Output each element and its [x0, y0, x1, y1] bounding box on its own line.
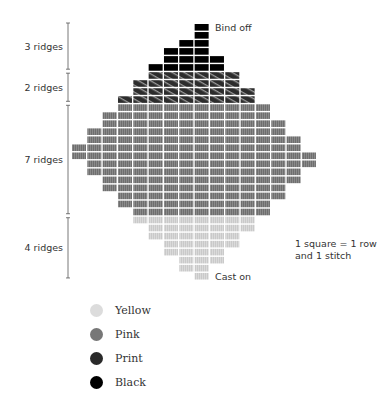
stitch-cell-pink [256, 104, 270, 111]
stitch-cell-black [195, 40, 209, 47]
stitch-cell-pink [241, 185, 255, 192]
stitch-cell-pink [164, 201, 178, 208]
stitch-cell-print [225, 96, 239, 103]
legend-item-black: Black [90, 370, 151, 394]
stitch-cell-pink [225, 128, 239, 135]
stitch-cell-pink [179, 120, 193, 127]
stitch-cell-pink [225, 144, 239, 151]
stitch-cell-pink [164, 209, 178, 216]
stitch-cell-pink [271, 177, 285, 184]
stitch-cell-yellow [179, 217, 193, 224]
stitch-cell-pink [72, 144, 86, 151]
stitch-cell-yellow [210, 241, 224, 248]
stitch-cell-pink [210, 169, 224, 176]
stitch-cell-print [241, 88, 255, 95]
stitch-cell-pink [271, 128, 285, 135]
stitch-cell-black [195, 56, 209, 63]
stitch-cell-pink [149, 152, 163, 159]
black-swatch-icon [90, 376, 103, 389]
stitch-cell-pink [287, 177, 301, 184]
stitch-cell-yellow [225, 233, 239, 240]
stitch-cell-pink [118, 128, 132, 135]
stitch-cell-pink [133, 201, 147, 208]
stitch-cell-pink [241, 104, 255, 111]
stitch-cell-pink [118, 144, 132, 151]
stitch-cell-pink [195, 112, 209, 119]
stitch-cell-pink [118, 161, 132, 168]
stitch-cell-pink [87, 152, 101, 159]
stitch-cell-print [210, 88, 224, 95]
stitch-cell-yellow [210, 257, 224, 264]
ridge-brackets: 3 ridges2 ridges7 ridges4 ridges [25, 23, 70, 278]
stitch-cell-pink [241, 128, 255, 135]
stitch-cell-print [195, 72, 209, 79]
stitch-cell-pink [225, 169, 239, 176]
stitch-cell-pink [210, 128, 224, 135]
stitch-cell-pink [256, 144, 270, 151]
knitting-chart: 3 ridges2 ridges7 ridges4 ridges Bind of… [0, 0, 387, 300]
stitch-cell-pink [103, 144, 117, 151]
stitch-cell-yellow [164, 249, 178, 256]
chart-cells [72, 24, 316, 280]
stitch-cell-pink [179, 169, 193, 176]
stitch-cell-yellow [195, 217, 209, 224]
stitch-cell-pink [164, 120, 178, 127]
stitch-cell-pink [133, 185, 147, 192]
stitch-cell-pink [103, 136, 117, 143]
stitch-cell-pink [87, 144, 101, 151]
stitch-cell-pink [87, 169, 101, 176]
stitch-cell-pink [241, 161, 255, 168]
stitch-cell-yellow [225, 241, 239, 248]
stitch-cell-pink [164, 177, 178, 184]
stitch-cell-yellow [149, 233, 163, 240]
stitch-cell-pink [225, 201, 239, 208]
stitch-cell-print [133, 80, 147, 87]
stitch-cell-print [133, 88, 147, 95]
bind-off-label: Bind off [215, 22, 252, 33]
legend-item-print: Print [90, 346, 151, 370]
stitch-cell-pink [256, 169, 270, 176]
stitch-cell-pink [256, 120, 270, 127]
stitch-cell-print [210, 72, 224, 79]
stitch-cell-pink [118, 193, 132, 200]
stitch-cell-pink [133, 152, 147, 159]
stitch-cell-print [164, 72, 178, 79]
stitch-cell-pink [164, 169, 178, 176]
stitch-cell-pink [149, 209, 163, 216]
stitch-cell-print [133, 96, 147, 103]
stitch-cell-yellow [195, 233, 209, 240]
stitch-cell-yellow [195, 265, 209, 272]
stitch-cell-pink [195, 136, 209, 143]
print-swatch-icon [90, 352, 103, 365]
stitch-cell-pink [103, 152, 117, 159]
stitch-cell-print [179, 96, 193, 103]
stitch-cell-black [195, 64, 209, 71]
stitch-cell-pink [241, 120, 255, 127]
stitch-cell-pink [103, 185, 117, 192]
stitch-cell-print [225, 88, 239, 95]
stitch-cell-pink [195, 209, 209, 216]
stitch-cell-yellow [133, 217, 147, 224]
stitch-cell-pink [241, 177, 255, 184]
stitch-cell-pink [133, 136, 147, 143]
stitch-cell-pink [210, 152, 224, 159]
stitch-cell-print [149, 96, 163, 103]
stitch-cell-yellow [164, 217, 178, 224]
stitch-cell-pink [118, 136, 132, 143]
stitch-cell-pink [302, 152, 316, 159]
stitch-cell-yellow [179, 233, 193, 240]
stitch-cell-pink [241, 144, 255, 151]
stitch-cell-pink [256, 128, 270, 135]
stitch-cell-pink [149, 177, 163, 184]
stitch-cell-yellow [210, 217, 224, 224]
stitch-cell-pink [225, 193, 239, 200]
stitch-cell-pink [210, 193, 224, 200]
stitch-cell-pink [271, 120, 285, 127]
legend-label: Yellow [115, 304, 151, 317]
stitch-cell-yellow [149, 225, 163, 232]
stitch-cell-pink [210, 136, 224, 143]
stitch-cell-pink [118, 112, 132, 119]
stitch-cell-pink [133, 144, 147, 151]
stitch-cell-pink [118, 120, 132, 127]
stitch-cell-pink [195, 104, 209, 111]
